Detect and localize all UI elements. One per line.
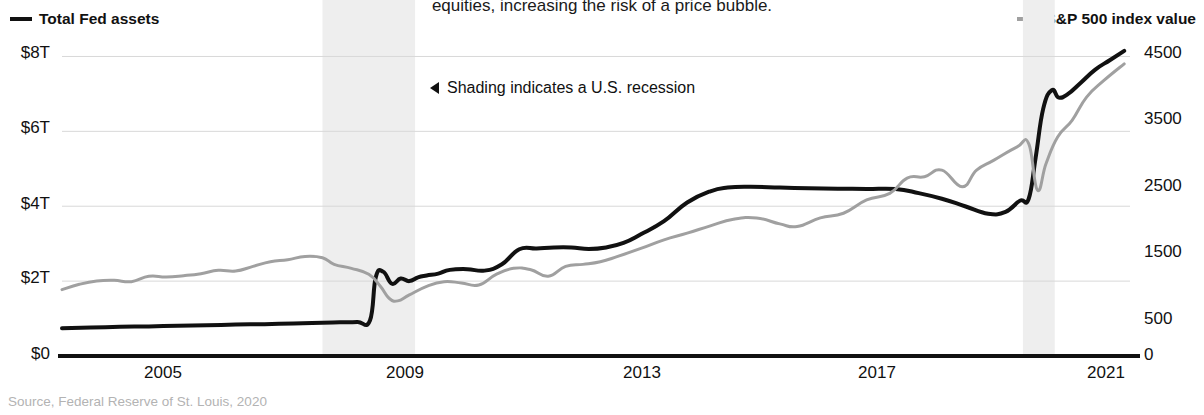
y-tick-left-1: $6T — [21, 119, 50, 136]
y-tick-right-5: 0 — [1144, 346, 1153, 363]
chart-figure: equities, increasing the risk of a price… — [0, 0, 1204, 415]
x-tick-2005: 2005 — [144, 364, 182, 381]
source-note: Source, Federal Reserve of St. Louis, 20… — [8, 394, 267, 409]
x-tick-2017: 2017 — [858, 364, 896, 381]
y-tick-left-3: $2T — [21, 269, 50, 286]
y-tick-right-2: 2500 — [1144, 177, 1182, 194]
right-axis-labels: 4500 3500 2500 1500 500 0 — [1140, 0, 1204, 415]
recession-shading-layer — [322, 0, 1054, 356]
x-tick-2021: 2021 — [1087, 364, 1125, 381]
x-axis-labels: 2005 2009 2013 2017 2021 — [0, 364, 1204, 390]
recession-annotation-label: Shading indicates a U.S. recession — [447, 79, 695, 97]
recession-annotation: Shading indicates a U.S. recession — [430, 79, 695, 97]
recession-band-0 — [322, 0, 415, 356]
y-tick-right-0: 4500 — [1144, 44, 1182, 61]
recession-band-1 — [1023, 0, 1055, 356]
x-tick-2013: 2013 — [623, 364, 661, 381]
y-tick-right-4: 500 — [1144, 310, 1172, 327]
y-tick-left-0: $8T — [21, 44, 50, 61]
y-tick-left-4: $0 — [31, 345, 50, 362]
left-axis-labels: $8T $6T $4T $2T $0 — [0, 0, 58, 415]
y-tick-right-1: 3500 — [1144, 110, 1182, 127]
left-triangle-icon — [430, 82, 439, 94]
x-tick-2009: 2009 — [386, 364, 424, 381]
series-line-s-p-500-index-value — [62, 64, 1124, 301]
y-tick-right-3: 1500 — [1144, 243, 1182, 260]
y-tick-left-2: $4T — [21, 195, 50, 212]
